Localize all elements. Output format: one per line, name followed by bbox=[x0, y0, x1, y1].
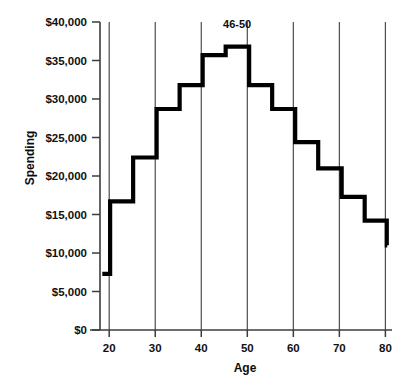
spending-step-line bbox=[102, 47, 387, 274]
y-tick-label: $0 bbox=[74, 324, 87, 336]
y-tick-label: $5,000 bbox=[52, 286, 87, 298]
y-axis-title: Spending bbox=[23, 131, 37, 186]
x-tick-label: 40 bbox=[195, 342, 208, 354]
chart-canvas: $0$5,000$10,000$15,000$20,000$25,000$30,… bbox=[0, 0, 417, 392]
x-axis-title: Age bbox=[234, 361, 257, 375]
x-tick-label: 50 bbox=[241, 342, 254, 354]
spending-by-age-chart: $0$5,000$10,000$15,000$20,000$25,000$30,… bbox=[0, 0, 417, 392]
y-tick-label: $30,000 bbox=[45, 93, 87, 105]
x-tick-label: 80 bbox=[379, 342, 392, 354]
x-tick-label: 30 bbox=[149, 342, 162, 354]
y-tick-label: $35,000 bbox=[45, 55, 87, 67]
x-tick-label: 70 bbox=[333, 342, 346, 354]
y-tick-label: $20,000 bbox=[45, 170, 87, 182]
y-tick-label: $40,000 bbox=[45, 16, 87, 28]
x-tick-label: 20 bbox=[103, 342, 116, 354]
y-tick-label: $25,000 bbox=[45, 132, 87, 144]
x-tick-label: 60 bbox=[287, 342, 300, 354]
peak-annotation-label: 46-50 bbox=[223, 18, 251, 30]
y-tick-label: $10,000 bbox=[45, 247, 87, 259]
y-tick-label: $15,000 bbox=[45, 209, 87, 221]
